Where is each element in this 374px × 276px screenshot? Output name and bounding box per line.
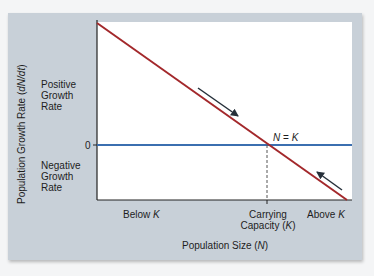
plot-area [97, 22, 352, 200]
carrying-capacity-label: Carrying Capacity (K) [237, 209, 299, 231]
x-axis-label: Population Size (N) [182, 240, 268, 251]
n-equals-k-label: N = K [273, 132, 298, 143]
positive-growth-label: PositiveGrowthRate [41, 79, 76, 112]
below-k-label: Below K [123, 209, 160, 220]
y-axis-label: Population Growth Rate (dN/dt) [16, 64, 27, 204]
above-k-label: Above K [307, 209, 345, 220]
zero-tick-label: 0 [85, 140, 91, 151]
chart-plot [0, 0, 374, 276]
negative-growth-label: NegativeGrowthRate [41, 160, 80, 193]
